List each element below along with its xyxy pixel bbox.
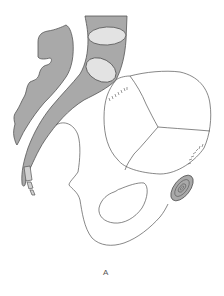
- anatomical-diagram: [0, 0, 224, 296]
- fetal-head: [104, 71, 211, 174]
- panel-label: A: [103, 268, 108, 277]
- coccyx: [24, 166, 35, 195]
- pubic-symphysis: [166, 171, 197, 204]
- obturator-foramen: [99, 183, 147, 223]
